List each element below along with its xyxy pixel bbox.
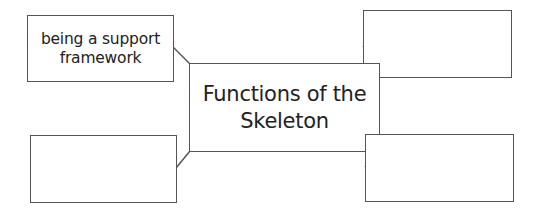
branch-text-line: framework (41, 49, 160, 68)
center-title: Functions of the Skeleton (203, 81, 367, 135)
branch-box-bottom-left[interactable] (30, 135, 177, 203)
connector-bottom-left (176, 151, 190, 168)
branch-box-top-right[interactable] (363, 10, 512, 78)
branch-box-bottom-right[interactable] (365, 134, 514, 202)
center-title-line: Skeleton (203, 108, 367, 135)
branch-box-top-left: being a support framework (27, 15, 174, 82)
center-title-line: Functions of the (203, 81, 367, 108)
branch-text-top-left: being a support framework (41, 30, 160, 67)
connector-top-left (173, 47, 190, 64)
branch-text-line: being a support (41, 30, 160, 49)
center-box: Functions of the Skeleton (189, 63, 380, 152)
